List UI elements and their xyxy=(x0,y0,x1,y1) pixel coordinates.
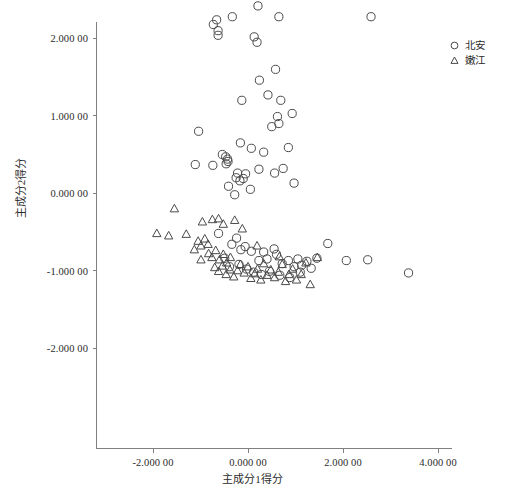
data-point-triangle xyxy=(231,216,239,224)
data-points-layer xyxy=(153,2,413,288)
data-point-circle xyxy=(242,170,250,178)
data-point-circle xyxy=(228,13,236,21)
data-point-circle xyxy=(263,255,271,263)
x-tick-label: -2.000 00 xyxy=(132,457,173,468)
data-point-circle xyxy=(224,182,232,190)
data-point-circle xyxy=(342,256,350,264)
data-point-circle xyxy=(268,123,276,131)
data-point-circle xyxy=(195,127,203,135)
data-point-triangle xyxy=(153,229,161,237)
series-circle xyxy=(191,2,412,282)
data-point-circle xyxy=(294,255,302,263)
data-point-circle xyxy=(191,160,199,168)
data-point-circle xyxy=(364,256,372,264)
x-axis-title: 主成分1得分 xyxy=(0,470,505,486)
plot-canvas xyxy=(0,0,505,502)
data-point-circle xyxy=(255,165,263,173)
data-point-triangle xyxy=(197,255,205,263)
data-point-triangle xyxy=(219,220,227,228)
y-axis-title: 主成分2得分 xyxy=(12,108,28,268)
legend: 北安 嫩江 xyxy=(449,38,485,68)
data-point-circle xyxy=(264,91,272,99)
data-point-triangle xyxy=(182,230,190,238)
x-tick-label: 2.000 00 xyxy=(324,457,362,468)
data-point-circle xyxy=(367,13,375,21)
data-point-circle xyxy=(214,27,222,35)
data-point-circle xyxy=(254,2,262,10)
data-point-triangle xyxy=(198,217,206,225)
data-point-circle xyxy=(324,239,332,247)
data-point-circle xyxy=(238,96,246,104)
data-point-circle xyxy=(247,247,255,255)
data-point-triangle xyxy=(306,280,314,288)
y-tick-label: -2.000 00 xyxy=(14,343,88,354)
data-point-circle xyxy=(277,96,285,104)
data-point-circle xyxy=(233,234,241,242)
data-point-circle xyxy=(270,245,278,253)
data-point-circle xyxy=(246,185,254,193)
data-point-triangle xyxy=(238,224,246,232)
scatter-plot-figure: -2.000 00-1.000 000.000 001.000 002.000 … xyxy=(0,0,505,502)
data-point-circle xyxy=(290,179,298,187)
data-point-triangle xyxy=(212,246,220,254)
series-triangle xyxy=(153,204,322,287)
y-tick-label: 2.000 00 xyxy=(14,33,88,44)
data-point-circle xyxy=(214,31,222,39)
data-point-circle xyxy=(214,229,222,237)
data-point-circle xyxy=(271,169,279,177)
legend-label-beian: 北安 xyxy=(465,38,485,53)
data-point-circle xyxy=(260,148,268,156)
data-point-circle xyxy=(231,191,239,199)
data-point-circle xyxy=(279,164,287,172)
data-point-triangle xyxy=(164,231,172,239)
x-tick-label: 0.000 00 xyxy=(229,457,267,468)
data-point-circle xyxy=(404,269,412,277)
x-tick-label: 4.000 00 xyxy=(419,457,457,468)
data-point-circle xyxy=(271,65,279,73)
legend-label-nenjiang: 嫩江 xyxy=(465,53,485,68)
data-point-circle xyxy=(247,144,255,152)
legend-item-beian: 北安 xyxy=(449,38,485,53)
data-point-circle xyxy=(275,13,283,21)
circle-marker-icon xyxy=(449,40,460,51)
data-point-circle xyxy=(209,161,217,169)
data-point-circle xyxy=(288,109,296,117)
data-point-triangle xyxy=(170,204,178,212)
data-point-circle xyxy=(236,139,244,147)
data-point-circle xyxy=(255,76,263,84)
data-point-circle xyxy=(307,264,315,272)
triangle-marker-icon xyxy=(449,55,460,66)
data-point-circle xyxy=(284,143,292,151)
legend-item-nenjiang: 嫩江 xyxy=(449,53,485,68)
